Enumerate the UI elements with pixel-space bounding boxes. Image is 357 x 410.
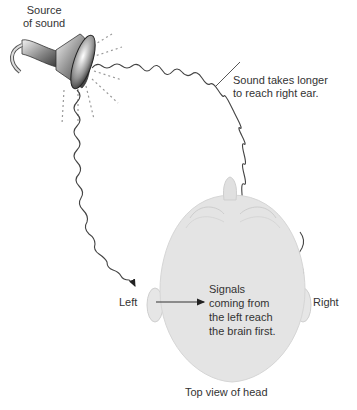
source-label: Source of sound <box>23 4 65 30</box>
caption: Top view of head <box>185 386 268 399</box>
source-label-line2: of sound <box>23 17 65 30</box>
signals-label: Signals coming from the left reach the b… <box>209 282 276 338</box>
signals-line4: the brain first. <box>209 324 276 338</box>
head-top-view <box>147 177 311 382</box>
nose <box>223 177 236 200</box>
horn-icon <box>12 33 100 92</box>
signals-line1: Signals <box>209 282 276 296</box>
sound-wave-right <box>92 64 246 203</box>
left-label: Left <box>119 296 137 309</box>
longer-label-line1: Sound takes longer <box>233 74 328 87</box>
source-label-line1: Source <box>23 4 65 17</box>
diagram-canvas <box>0 0 357 410</box>
right-label: Right <box>313 296 339 309</box>
signals-line2: coming from <box>209 296 276 310</box>
longer-label-line2: to reach right ear. <box>233 87 328 100</box>
sound-wave-left <box>74 90 135 286</box>
longer-label: Sound takes longer to reach right ear. <box>233 74 328 100</box>
signals-line3: the left reach <box>209 310 276 324</box>
